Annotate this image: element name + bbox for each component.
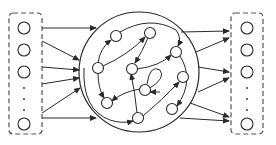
input-ellipsis-dot	[23, 87, 25, 89]
reservoir-node-D	[127, 64, 138, 75]
output-layer	[231, 13, 263, 134]
output-node	[241, 118, 253, 130]
reservoir-node-H	[102, 98, 113, 109]
output-edge	[196, 38, 229, 52]
output-ellipsis-dot	[246, 109, 248, 111]
reservoir	[79, 12, 199, 132]
output-node	[241, 22, 253, 34]
input-edge	[42, 67, 79, 70]
reservoir-node-G	[178, 72, 189, 83]
input-ellipsis-dot	[23, 98, 25, 100]
input-ellipsis-dot	[23, 109, 25, 111]
output-edge	[190, 103, 229, 117]
reservoir-node-A	[111, 31, 122, 42]
input-edge	[42, 41, 79, 60]
output-edge	[180, 118, 229, 121]
reservoir-node-F	[140, 85, 151, 96]
output-ellipsis-dot	[246, 87, 248, 89]
input-edge	[42, 78, 79, 84]
output-edge	[198, 78, 229, 92]
input-node	[18, 118, 30, 130]
reservoir-node-B	[145, 28, 156, 39]
output-node	[241, 66, 253, 78]
diagram-svg	[0, 0, 276, 145]
output-edge	[198, 67, 229, 72]
output-edge	[181, 31, 229, 32]
input-layer	[9, 13, 42, 134]
output-ellipsis-dot	[246, 98, 248, 100]
reservoir-node-E	[171, 47, 182, 58]
reservoir-node-J	[167, 104, 178, 115]
input-node	[18, 44, 30, 56]
input-node	[18, 22, 30, 34]
input-edge	[42, 88, 80, 113]
output-node	[241, 44, 253, 56]
reservoir-network-diagram	[0, 0, 276, 145]
reservoir-node-C	[93, 63, 104, 74]
reservoir-node-I	[133, 113, 144, 124]
input-node	[18, 66, 30, 78]
